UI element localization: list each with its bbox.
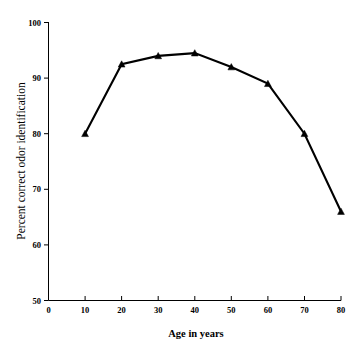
line-chart: 100 90 80 70 60 50 0 10 20 30 40 50: [0, 0, 360, 348]
x-tick-label: 10: [81, 305, 90, 315]
x-tick-label: 50: [227, 305, 236, 315]
x-tick-label: 70: [300, 305, 309, 315]
y-tick-label: 90: [33, 73, 42, 83]
x-tick-label: 20: [117, 305, 126, 315]
y-axis-title: Percent correct odor identification: [15, 82, 27, 240]
y-tick-label: 100: [28, 18, 41, 28]
y-tick-label: 60: [33, 240, 42, 250]
chart-figure: 100 90 80 70 60 50 0 10 20 30 40 50: [0, 0, 360, 348]
x-tick-label: 40: [191, 305, 200, 315]
x-tick-label: 30: [154, 305, 163, 315]
x-tick-label: 0: [46, 305, 50, 315]
y-tick-label: 50: [33, 296, 42, 306]
x-tick-label: 60: [264, 305, 273, 315]
chart-background: [0, 0, 360, 348]
y-tick-label: 70: [33, 184, 42, 194]
y-tick-label: 80: [33, 129, 42, 139]
x-tick-label: 80: [337, 305, 346, 315]
x-axis-title: Age in years: [168, 328, 223, 339]
